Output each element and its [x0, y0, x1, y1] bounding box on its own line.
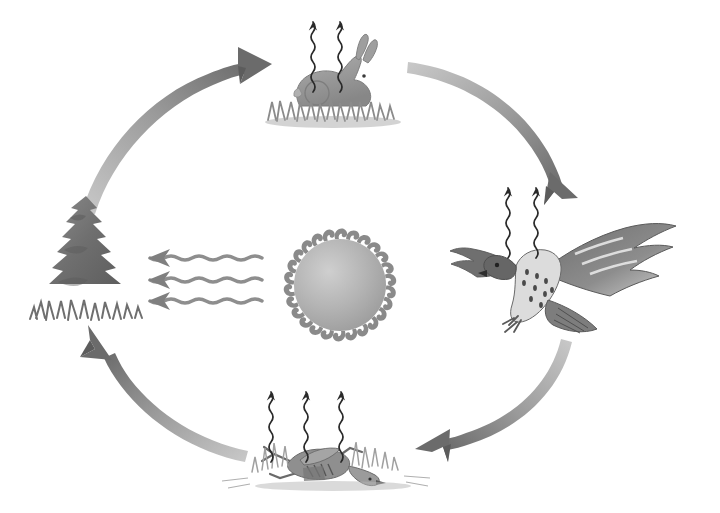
- tree-grass: [30, 300, 142, 320]
- arrow-tree-to-rabbit: [82, 47, 272, 214]
- carcass-icon: [222, 442, 430, 491]
- tree-icon: [49, 196, 121, 286]
- diagram-svg: [0, 0, 720, 513]
- hawk-icon: [450, 224, 676, 333]
- sun-icon: [283, 228, 397, 341]
- rabbit-ground: [265, 116, 401, 128]
- rabbit-icon: [294, 34, 378, 106]
- arrow-rabbit-to-hawk: [407, 62, 578, 205]
- arrow-hawk-to-carcass: [415, 339, 572, 462]
- diagram-canvas: Energy flow cycle diagram Circular energ…: [0, 0, 720, 513]
- heat-loss-arrows-hawk: [504, 188, 540, 258]
- arrow-carcass-to-tree: [80, 325, 248, 462]
